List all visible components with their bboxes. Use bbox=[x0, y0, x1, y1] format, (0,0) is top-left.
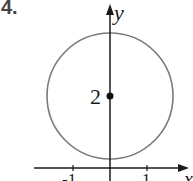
x-tick-label-1: 1 bbox=[142, 170, 151, 181]
x-axis-label: x bbox=[184, 168, 193, 181]
y-axis-label: y bbox=[114, 0, 124, 26]
y-axis-arrow-icon bbox=[106, 4, 114, 15]
center-label: 2 bbox=[90, 84, 101, 110]
x-tick-label-neg1: -1 bbox=[62, 170, 76, 181]
center-point bbox=[107, 93, 114, 100]
